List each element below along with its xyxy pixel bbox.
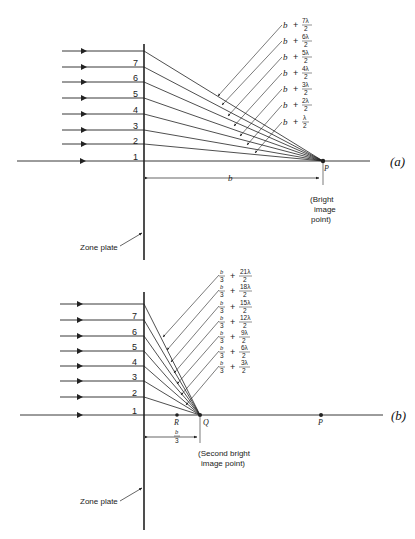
- zone-number-7: 7: [133, 58, 138, 68]
- svg-text:+: +: [230, 347, 235, 357]
- incoming-rays-a: [62, 51, 144, 144]
- ray-arrows-b: [77, 301, 83, 418]
- svg-text:b: b: [283, 36, 288, 46]
- svg-text:7λ: 7λ: [302, 17, 310, 24]
- label-leaders-a: [218, 25, 282, 153]
- svg-text:2: 2: [304, 105, 308, 112]
- svg-text:2: 2: [243, 307, 247, 314]
- svg-text:3: 3: [220, 307, 224, 314]
- svg-text:3: 3: [220, 322, 224, 329]
- svg-text:+: +: [293, 20, 298, 30]
- svg-text:3λ: 3λ: [241, 359, 249, 366]
- svg-text:9λ: 9λ: [241, 329, 249, 336]
- svg-text:2: 2: [242, 352, 246, 359]
- svg-text:+: +: [230, 286, 235, 296]
- svg-text:2: 2: [242, 337, 246, 344]
- svg-text:5λ: 5λ: [302, 49, 310, 56]
- svg-text:2λ: 2λ: [302, 97, 310, 104]
- svg-text:2: 2: [243, 276, 247, 283]
- svg-text:+: +: [293, 100, 298, 110]
- zone-number-7-b: 7: [132, 311, 137, 321]
- path-label-b-12: b 3 + 12λ 2: [219, 314, 252, 329]
- panel-a-text: 7 6 5 4 3 2 1 b + 7λ 2 b + 6λ 2 b + 5λ 2: [80, 17, 405, 252]
- zone-number-5-b: 5: [132, 342, 137, 352]
- zone-number-5: 5: [133, 89, 138, 99]
- svg-text:+: +: [293, 117, 298, 127]
- path-label-1: b + λ 2: [283, 114, 309, 129]
- image-point-q: [198, 413, 202, 417]
- svg-text:b: b: [283, 68, 288, 78]
- zone-plate-pointer-b: [120, 488, 142, 501]
- label-b-over-3-den: 3: [175, 437, 179, 444]
- svg-text:b: b: [220, 344, 224, 351]
- svg-text:3: 3: [220, 352, 224, 359]
- ray-arrows-a: [80, 48, 87, 164]
- svg-text:2: 2: [304, 25, 308, 32]
- image-point-p-a: [321, 159, 325, 163]
- svg-text:12λ: 12λ: [240, 314, 251, 321]
- svg-text:2: 2: [304, 89, 308, 96]
- svg-text:b: b: [220, 314, 224, 321]
- label-p-a: P: [323, 164, 329, 173]
- zone-number-2: 2: [133, 136, 138, 146]
- svg-text:6λ: 6λ: [241, 344, 249, 351]
- svg-text:b: b: [220, 359, 224, 366]
- note-second-bright-line1: (Second bright: [198, 449, 251, 458]
- svg-text:15λ: 15λ: [240, 299, 251, 306]
- svg-text:b: b: [220, 268, 224, 275]
- zone-number-2-b: 2: [132, 388, 137, 398]
- zone-plate-label-b: Zone plate: [80, 497, 118, 506]
- svg-text:18λ: 18λ: [240, 283, 251, 290]
- path-label-b-15: b 3 + 15λ 2: [219, 299, 252, 314]
- label-q: Q: [203, 418, 209, 427]
- svg-text:2: 2: [304, 73, 308, 80]
- svg-text:+: +: [293, 36, 298, 46]
- zone-plate-label-a: Zone plate: [80, 243, 118, 252]
- svg-text:3: 3: [220, 337, 224, 344]
- svg-text:2: 2: [303, 122, 307, 129]
- svg-text:2: 2: [242, 367, 246, 374]
- path-label-6: b + 6λ 2: [283, 33, 312, 48]
- svg-text:b: b: [220, 283, 224, 290]
- panel-b: [20, 275, 383, 530]
- path-label-b-21: b 3 + 21λ 2: [219, 268, 252, 283]
- zone-number-4-b: 4: [132, 357, 137, 367]
- note-bright-line2: image: [314, 205, 336, 214]
- zone-number-3: 3: [133, 121, 138, 131]
- svg-text:4λ: 4λ: [302, 65, 310, 72]
- panel-a: [17, 25, 370, 260]
- svg-text:2: 2: [243, 291, 247, 298]
- svg-text:b: b: [283, 84, 288, 94]
- svg-text:+: +: [230, 332, 235, 342]
- image-point-p-b: [319, 413, 323, 417]
- svg-text:b: b: [220, 329, 224, 336]
- zone-number-6-b: 6: [132, 327, 137, 337]
- svg-text:2: 2: [304, 41, 308, 48]
- svg-text:+: +: [293, 52, 298, 62]
- zone-plate-pointer-a: [120, 233, 142, 246]
- zone-number-1-b: 1: [132, 406, 137, 416]
- path-label-2: b + 2λ 2: [283, 97, 312, 112]
- svg-text:+: +: [230, 271, 235, 281]
- svg-text:6λ: 6λ: [302, 33, 310, 40]
- svg-text:+: +: [293, 84, 298, 94]
- label-leaders-b: [163, 275, 219, 405]
- path-label-b-18: b 3 + 18λ 2: [219, 283, 252, 298]
- zone-number-1: 1: [133, 152, 138, 162]
- label-b: b: [228, 173, 233, 183]
- zone-number-4: 4: [133, 105, 138, 115]
- path-label-4: b + 4λ 2: [283, 65, 312, 80]
- svg-text:b: b: [283, 117, 288, 127]
- svg-text:b: b: [283, 100, 288, 110]
- svg-text:b: b: [283, 52, 288, 62]
- note-bright-line1: (Bright: [310, 195, 334, 204]
- svg-text:λ: λ: [303, 114, 307, 121]
- svg-text:3: 3: [220, 367, 224, 374]
- label-r: R: [173, 418, 179, 427]
- svg-text:2: 2: [304, 57, 308, 64]
- svg-text:3: 3: [220, 291, 224, 298]
- svg-text:+: +: [230, 302, 235, 312]
- panel-tag-b: (b): [391, 408, 406, 423]
- svg-text:+: +: [230, 362, 235, 372]
- path-label-5: b + 5λ 2: [283, 49, 312, 64]
